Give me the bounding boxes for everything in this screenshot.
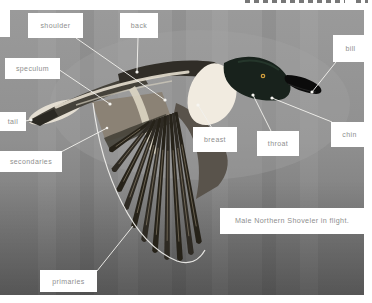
label-primaries: primaries [40, 270, 97, 292]
eye-pupil [262, 75, 264, 77]
label-chin: chin [331, 122, 368, 147]
label-back: back [120, 13, 158, 38]
label-shoulder: shoulder [28, 13, 83, 38]
label-secondaries: secondaries [0, 151, 62, 172]
book-page-figure: shoulder back bill speculum tail seconda… [0, 0, 372, 303]
page-margin-notch [0, 10, 10, 37]
label-throat: throat [257, 131, 299, 156]
label-tail: tail [0, 112, 26, 131]
label-bill: bill [333, 35, 368, 62]
figure-caption: Male Northern Shoveler in flight. [220, 208, 364, 234]
label-speculum: speculum [5, 58, 60, 79]
label-breast: breast [193, 127, 237, 152]
